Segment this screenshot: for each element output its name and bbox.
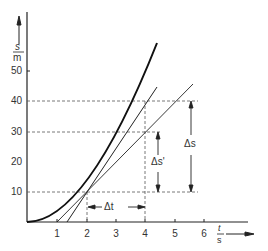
x-tick-5: 5 xyxy=(169,229,181,239)
y-axis-label-den: m xyxy=(13,53,21,63)
y-axis-label-num: s xyxy=(15,42,20,52)
x-tick-6: 6 xyxy=(198,229,210,239)
y-tick-20: 20 xyxy=(0,157,22,167)
x-axis-label-den: s xyxy=(217,236,222,245)
x-axis-arrow xyxy=(226,232,254,236)
tangent-line xyxy=(57,84,193,222)
y-tick-30: 30 xyxy=(0,127,22,137)
x-tick-1: 1 xyxy=(51,229,63,239)
y-tick-40: 40 xyxy=(0,96,22,106)
delta-t-label: Δt xyxy=(104,202,113,212)
diagram-canvas xyxy=(0,0,268,251)
x-tick-4: 4 xyxy=(139,229,151,239)
x-tick-2: 2 xyxy=(81,229,93,239)
y-tick-10: 10 xyxy=(0,187,22,197)
y-axis-arrow xyxy=(17,16,21,44)
x-axis-label-num: t xyxy=(218,224,221,233)
x-tick-3: 3 xyxy=(110,229,122,239)
delta-s-label: Δs xyxy=(184,139,196,149)
y-tick-50: 50 xyxy=(0,66,22,76)
delta-s-prime-label: Δs' xyxy=(151,157,165,167)
delta-t-arrow xyxy=(88,205,145,209)
s-t-curve xyxy=(27,43,157,222)
ticks xyxy=(27,71,204,222)
